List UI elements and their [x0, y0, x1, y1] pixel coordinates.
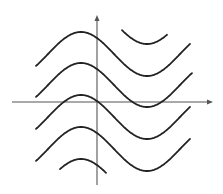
- curve-4: [36, 127, 190, 171]
- y-axis-arrow-icon: [95, 15, 100, 21]
- curve-bottom-partial: [60, 159, 106, 173]
- cosine-family-plot: [0, 0, 223, 194]
- curve-1: [36, 32, 190, 76]
- curve-2: [36, 63, 192, 107]
- x-axis-arrow-icon: [207, 100, 213, 105]
- curve-top-partial: [122, 30, 167, 44]
- axes: [12, 15, 213, 185]
- diagram-canvas: [0, 0, 223, 194]
